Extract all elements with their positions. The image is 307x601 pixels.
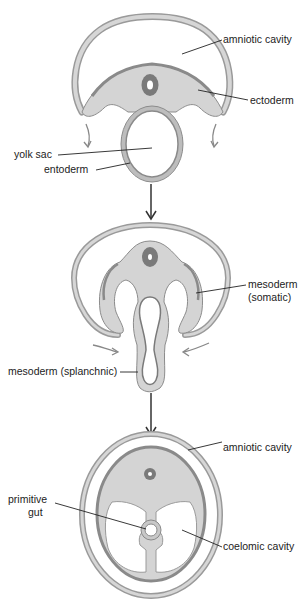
label-primitive-gut-2: gut: [28, 506, 43, 518]
label-yolk-sac: yolk sac: [14, 148, 52, 160]
label-mesoderm-splanchnic: mesoderm (splanchnic): [8, 365, 117, 377]
leader-amniotic-cavity: [182, 40, 222, 54]
label-primitive-gut-1: primitive: [8, 493, 47, 505]
leader-entoderm: [96, 163, 130, 170]
stage-1-diagram: amniotic cavity ectoderm yolk sac entode…: [14, 17, 294, 183]
label-mesoderm-somatic-1: mesoderm: [248, 278, 298, 290]
embryo-development-diagram: amniotic cavity ectoderm yolk sac entode…: [0, 0, 307, 601]
curved-arrow-left: [86, 124, 89, 146]
label-mesoderm-somatic-2: (somatic): [248, 291, 291, 303]
transition-arrow-2: [146, 393, 156, 435]
stage-2-diagram: mesoderm (somatic) mesoderm (splanchnic): [8, 225, 298, 392]
curved-arrow-right: [213, 124, 216, 146]
label-ectoderm: ectoderm: [250, 94, 294, 106]
leader-mesoderm-somatic: [196, 285, 246, 293]
stage-3-diagram: amniotic cavity primitive gut coelomic c…: [8, 434, 295, 596]
label-amniotic-cavity-1: amniotic cavity: [223, 33, 293, 45]
transition-arrow-1: [146, 184, 156, 219]
label-coelomic-cavity: coelomic cavity: [223, 540, 295, 552]
leader-amniotic-cavity-2: [188, 442, 222, 450]
curved-arrow-right-2: [184, 343, 209, 352]
label-amniotic-cavity-2: amniotic cavity: [223, 441, 293, 453]
label-entoderm: entoderm: [44, 163, 89, 175]
